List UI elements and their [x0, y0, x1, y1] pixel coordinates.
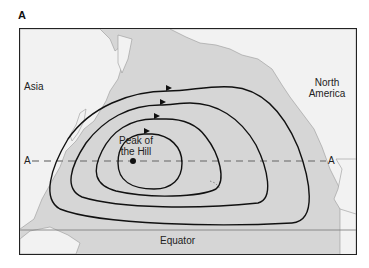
- panel-label: A: [18, 9, 26, 21]
- peak-point: [130, 158, 136, 164]
- arrow-icon: [160, 99, 166, 105]
- peak-label: Peak of the Hill: [116, 135, 156, 157]
- north-america-line2: America: [307, 88, 347, 99]
- asia-landmass: [20, 29, 124, 229]
- arrow-icon: [154, 113, 160, 119]
- contour-3: [96, 119, 221, 196]
- north-america-label: North America: [307, 77, 347, 99]
- kamchatka-peninsula: [118, 35, 132, 73]
- arrow-icon: [144, 128, 150, 134]
- arrow-icon: [166, 85, 172, 91]
- pacific-gyre-map: Asia North America Peak of the Hill A A …: [19, 28, 357, 255]
- equator-label: Equator: [160, 235, 195, 246]
- south-islands: [20, 227, 80, 254]
- north-america-line1: North: [307, 77, 347, 88]
- map-drawing: [20, 29, 356, 254]
- asia-label: Asia: [24, 81, 43, 92]
- section-label-right: A: [328, 155, 335, 166]
- section-label-left: A: [24, 155, 31, 166]
- north-america-landmass: [170, 29, 356, 254]
- peak-label-line1: Peak of: [116, 135, 156, 146]
- peak-label-line2: the Hill: [116, 146, 156, 157]
